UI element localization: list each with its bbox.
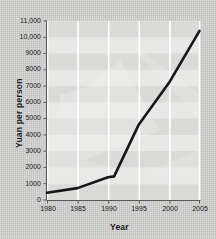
plot-area (0, 0, 216, 239)
line-chart: Yuan per person Year 11,000 10,000 9000 … (0, 0, 216, 239)
